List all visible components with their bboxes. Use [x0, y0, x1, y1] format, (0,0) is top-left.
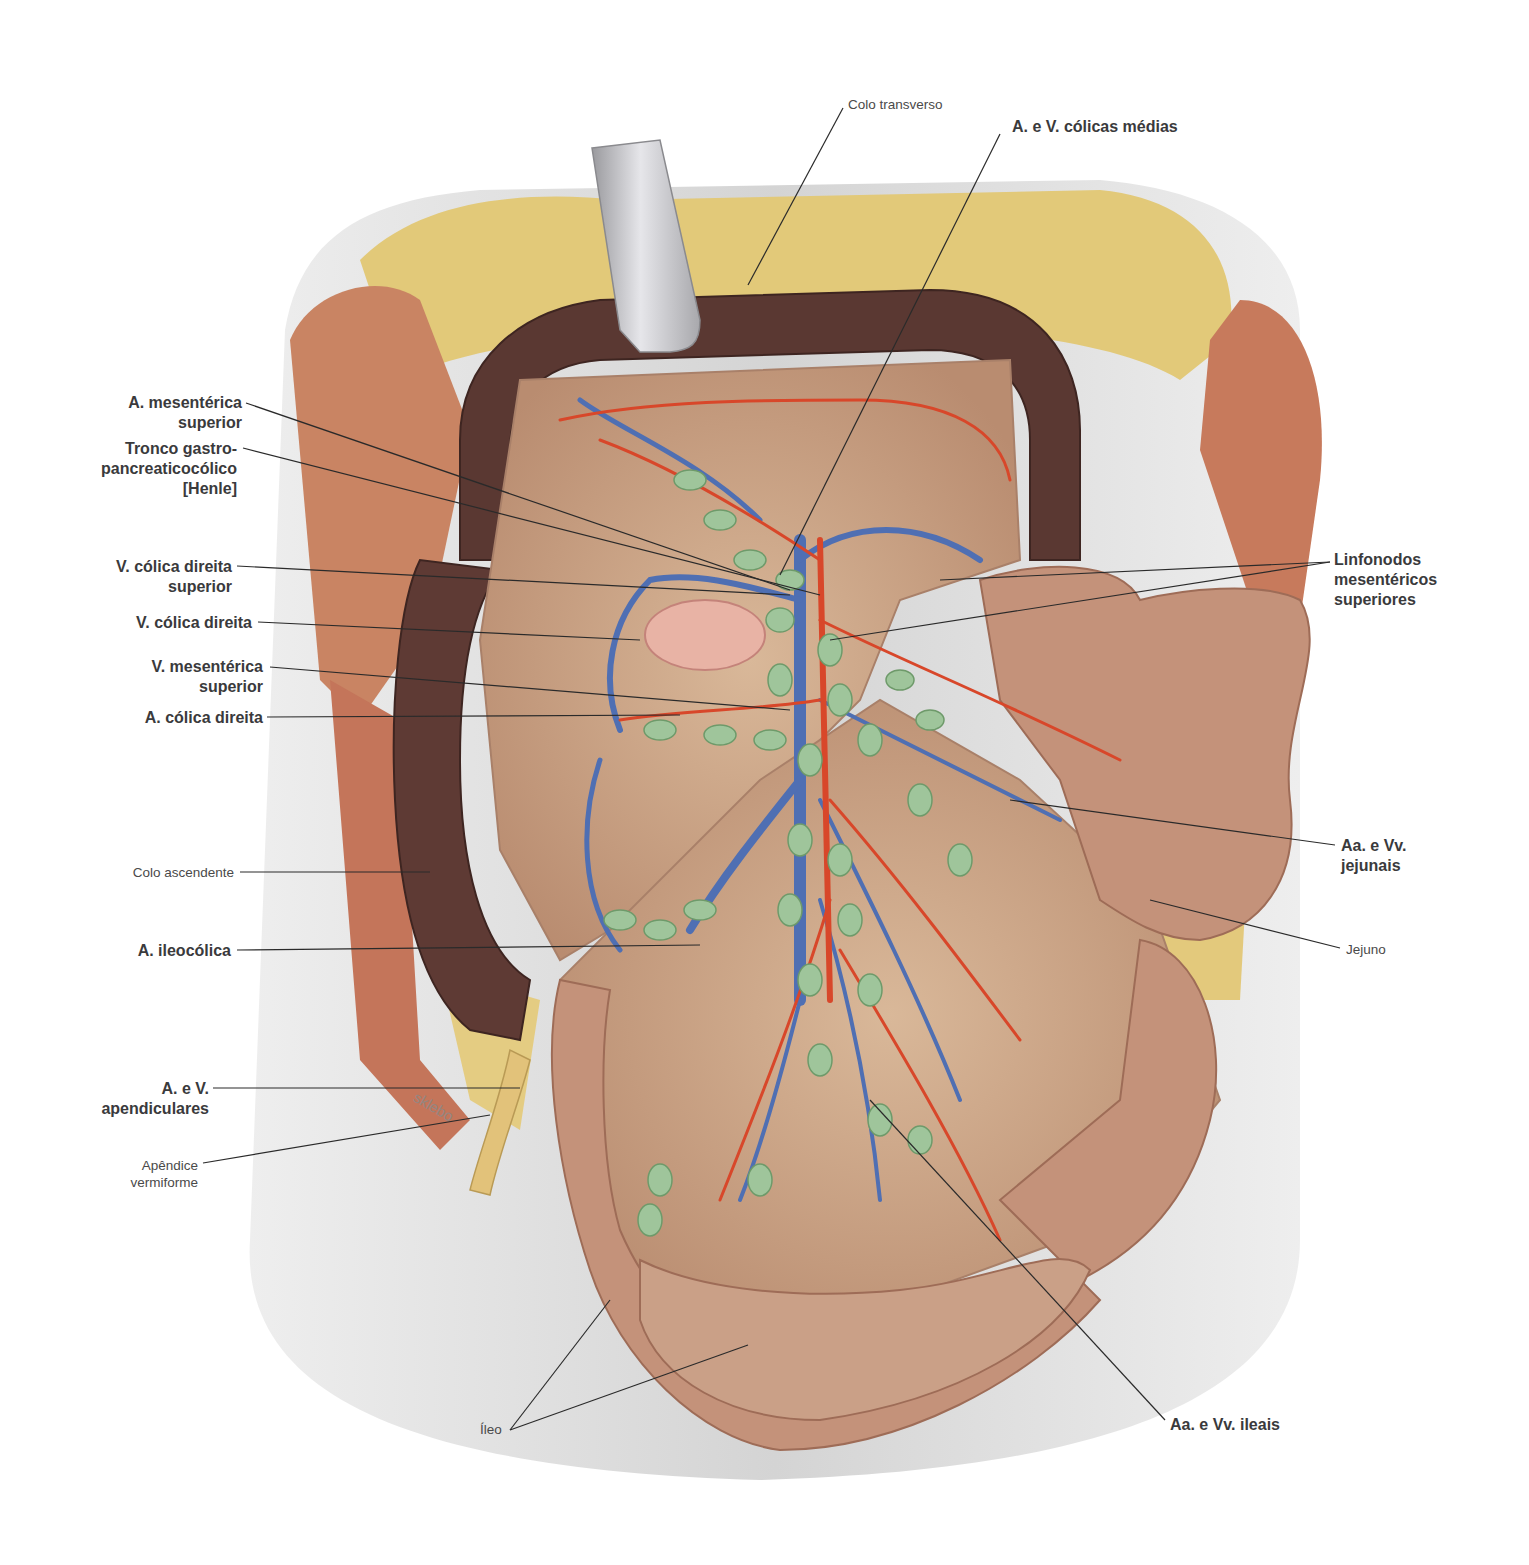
label-a-v-colicas-medias: A. e V. cólicas médias [1012, 117, 1178, 137]
label-aa-vv-ileais: Aa. e Vv. ileais [1170, 1415, 1280, 1435]
label-a-mesenterica-superior: A. mesentérica superior [128, 393, 242, 433]
label-v-colica-direita: V. cólica direita [136, 613, 252, 633]
label-a-ileocolica: A. ileocólica [138, 941, 231, 961]
label-apendice-vermiforme: Apêndice vermiforme [130, 1157, 198, 1191]
label-colo-transverso: Colo transverso [848, 96, 943, 113]
anatomical-illustration [0, 0, 1529, 1565]
label-tronco-gastropancreaticocolico: Tronco gastro- pancreaticocólico [Henle] [101, 439, 237, 499]
label-colo-ascendente: Colo ascendente [133, 864, 234, 881]
label-v-colica-direita-superior: V. cólica direita superior [116, 557, 232, 597]
pancreas-head [645, 600, 765, 670]
label-aa-vv-jejunais: Aa. e Vv. jejunais [1341, 836, 1407, 876]
label-a-colica-direita: A. cólica direita [145, 708, 263, 728]
label-v-mesenterica-superior: V. mesentérica superior [152, 657, 263, 697]
label-jejuno: Jejuno [1346, 941, 1386, 958]
label-ileo: Íleo [480, 1421, 502, 1438]
label-a-v-apendiculares: A. e V. apendiculares [101, 1079, 209, 1119]
label-linfonodos-mesentericos-superiores: Linfonodos mesentéricos superiores [1334, 550, 1437, 610]
